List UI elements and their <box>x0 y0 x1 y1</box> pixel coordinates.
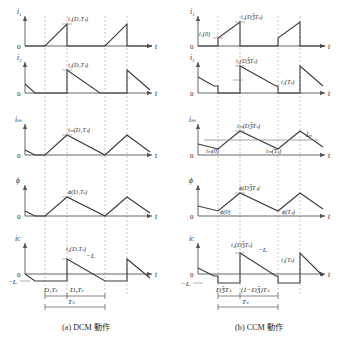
ccm-caption: (b) CCM 動作 <box>235 322 283 332</box>
dcm-caption: (a) DCM 動作 <box>62 322 110 332</box>
end-label-iC: i₂(Tₛ) <box>281 256 294 264</box>
ccm-period-label: Tₛ <box>242 298 249 306</box>
axis-label-i2: i₂ <box>17 53 22 62</box>
peak-label-im: iₘ(D₁Tₛ) <box>68 126 90 134</box>
zero-label: 0 <box>17 43 21 51</box>
Io-level-label: −Iₒ <box>258 246 267 254</box>
dcm-seg2-label: D₃Tₛ <box>69 286 84 294</box>
Io-level-label: −Iₒ <box>86 252 95 260</box>
peak-label-i1: i₁(DǮTₛ) <box>241 13 262 21</box>
axis-label-i1: i₁ <box>17 7 22 16</box>
end-label-i2: i₂(Tₛ) <box>281 78 294 86</box>
zero-label: 0 <box>190 213 194 221</box>
peak-label-iC: i₂(DǮTₛ) <box>231 241 252 249</box>
neg-Io-label: −Iₒ <box>8 278 17 286</box>
zero-label: 0 <box>17 90 21 98</box>
peak-label-i2: i₂(DǮTₛ) <box>236 57 257 65</box>
axis-label-i2: i₂ <box>190 53 195 62</box>
zero-label: 0 <box>190 152 194 160</box>
axis-label-iC: iᴄ <box>189 234 195 243</box>
end-label-im: iₘ(Tₛ) <box>266 147 281 155</box>
dcm-seg1-label: D₁Tₛ <box>43 286 58 294</box>
axis-label-phi: ϕ <box>189 176 193 185</box>
peak-label-phi: ϕ(D₁Tₛ) <box>68 188 87 196</box>
ccm-seg1-label: DǮTₛ <box>215 286 232 294</box>
axis-label-im: iₘ <box>15 115 22 124</box>
zero-label: 0 <box>190 90 194 98</box>
peak-label-im: iₘ(DǮTₛ) <box>237 122 260 130</box>
zero-label: 0 <box>17 152 21 160</box>
init-label-im: iₘ(0) <box>206 147 219 155</box>
dcm-period-label: Tₛ <box>68 298 75 306</box>
neg-Io-label: −Iₒ <box>181 280 190 288</box>
zero-label: 0 <box>17 271 21 279</box>
waveform-figure: i₁ 0 t i₁(D₁Tₛ) i₂ 0 t i₂(D₁Tₛ) iₘ <box>0 0 346 350</box>
peak-label-i2: i₂(D₁Tₛ) <box>68 61 88 69</box>
zero-label: 0 <box>190 43 194 51</box>
init-label-phi: ϕ(0) <box>220 208 230 216</box>
end-label-phi: ϕ(Tₛ) <box>282 208 295 216</box>
zero-label: 0 <box>190 271 194 279</box>
ccm-seg2-label: (1−DǮ)Tₛ <box>241 286 270 294</box>
peak-label-iC: i₂(D₁Tₛ) <box>66 245 86 253</box>
axis-label-iC: iᴄ <box>15 234 21 243</box>
axis-label-phi: ϕ <box>16 176 20 185</box>
init-label-i1: i₁(0) <box>199 30 210 38</box>
figure-background <box>0 0 346 350</box>
peak-label-phi: ϕ(DǮTₛ) <box>239 184 260 192</box>
peak-label-i1: i₁(D₁Tₛ) <box>68 15 88 23</box>
axis-label-i1: i₁ <box>190 7 195 16</box>
zero-label: 0 <box>17 213 21 221</box>
axis-label-im: iₘ <box>189 115 196 124</box>
average-label-im: Îₘ <box>305 131 312 138</box>
